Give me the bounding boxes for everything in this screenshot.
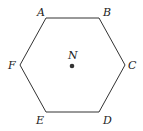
vertex-label-d: D — [102, 114, 112, 127]
center-point-n — [70, 64, 75, 69]
hexagon-diagram: A B C D E F N — [0, 0, 143, 131]
vertex-label-f: F — [7, 59, 16, 72]
vertex-label-a: A — [36, 6, 45, 19]
center-label-n: N — [67, 49, 78, 62]
vertex-label-e: E — [35, 114, 44, 127]
vertex-label-b: B — [102, 6, 111, 19]
vertex-label-c: C — [128, 59, 137, 72]
